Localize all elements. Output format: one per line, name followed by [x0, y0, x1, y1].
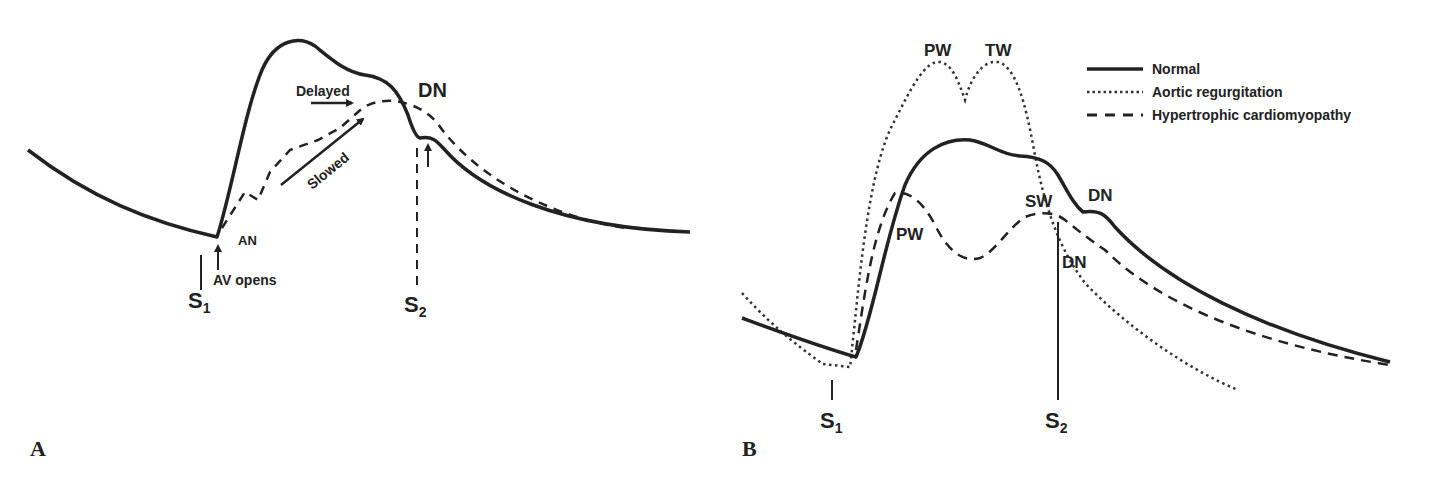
b-s1-label: S1: [820, 408, 843, 436]
dn-upper-label: DN: [1088, 186, 1113, 205]
pulse-waveform-diagram: DN Delayed Slowed AN AV opens S1 S2 A PW…: [0, 0, 1440, 482]
legend-label-hcm: Hypertrophic cardiomyopathy: [1152, 107, 1351, 123]
an-label: AN: [238, 233, 257, 248]
av-opens-label: AV opens: [213, 272, 277, 288]
pw-lower-label: PW: [896, 225, 924, 244]
dn-lower-label: DN: [1062, 253, 1087, 272]
s2-label: S2: [404, 292, 427, 320]
dn-label: DN: [418, 79, 447, 101]
panel-b: PW TW PW SW DN DN S1 S2 B Normal Aortic …: [742, 41, 1390, 461]
pw-top-label: PW: [924, 41, 952, 60]
legend-label-normal: Normal: [1152, 61, 1200, 77]
panel-a-letter: A: [30, 436, 46, 461]
delayed-label: Delayed: [296, 83, 350, 99]
sw-label: SW: [1025, 192, 1053, 211]
legend: Normal Aortic regurgitation Hypertrophic…: [1087, 61, 1351, 123]
panel-a-normal-curve: [28, 41, 690, 237]
legend-label-aortic: Aortic regurgitation: [1152, 84, 1283, 100]
s1-label: S1: [188, 288, 211, 316]
b-s2-label: S2: [1045, 408, 1068, 436]
panel-a: DN Delayed Slowed AN AV opens S1 S2 A: [28, 41, 690, 461]
panel-b-letter: B: [742, 436, 757, 461]
slowed-label: Slowed: [304, 149, 352, 192]
panel-a-hcm-dashed-curve: [222, 101, 625, 228]
tw-label: TW: [985, 41, 1012, 60]
